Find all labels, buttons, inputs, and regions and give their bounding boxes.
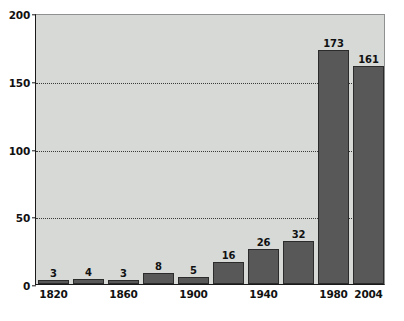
y-tick-label: 150	[9, 77, 30, 89]
bar-chart-figure: 050100150200 318204318608519001626194032…	[0, 0, 404, 321]
bar-value-label: 161	[358, 54, 378, 65]
bar: 51900	[178, 277, 210, 284]
y-tick-mark-50	[32, 218, 36, 219]
bar: 16	[213, 262, 245, 284]
bar: 1612004	[353, 66, 385, 284]
bar-value-label: 4	[85, 267, 92, 278]
x-tick-label: 2004	[354, 288, 382, 300]
bar-value-label: 3	[50, 268, 57, 279]
y-tick-mark-200	[32, 14, 36, 15]
bar-value-label: 173	[323, 38, 343, 49]
x-tick-label: 1860	[109, 288, 137, 300]
bar: 4	[73, 279, 105, 284]
bar-value-label: 5	[190, 265, 197, 276]
bar: 8	[143, 273, 175, 284]
bar: 31860	[108, 280, 140, 284]
y-tick-mark-0	[32, 285, 36, 286]
x-tick-label: 1900	[179, 288, 207, 300]
plot-area: 050100150200 318204318608519001626194032…	[35, 14, 385, 285]
x-tick-label: 1820	[39, 288, 67, 300]
bar-value-label: 16	[222, 250, 236, 261]
y-tick-mark-150	[32, 82, 36, 83]
bar-value-label: 8	[155, 261, 162, 272]
x-tick-label: 1940	[249, 288, 277, 300]
y-tick-label: 100	[9, 145, 30, 157]
x-tick-label: 1980	[319, 288, 347, 300]
bar: 261940	[248, 249, 280, 284]
bar: 31820	[38, 280, 70, 284]
y-tick-label: 50	[16, 212, 30, 224]
bar: 1731980	[318, 50, 350, 284]
y-tick-label: 0	[23, 280, 30, 292]
bar: 32	[283, 241, 315, 284]
bar-value-label: 32	[292, 229, 306, 240]
bar-value-label: 26	[257, 237, 271, 248]
y-tick-mark-100	[32, 150, 36, 151]
y-tick-label: 200	[9, 9, 30, 21]
bar-value-label: 3	[120, 268, 127, 279]
